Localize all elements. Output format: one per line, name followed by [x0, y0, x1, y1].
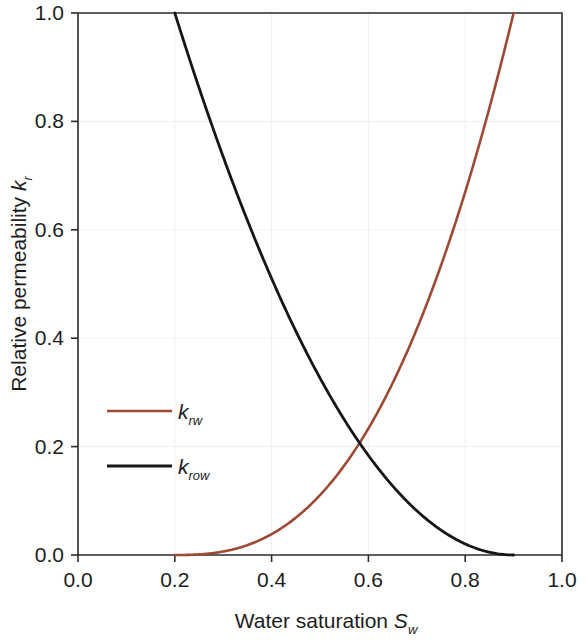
- x-tick-label: 0.4: [257, 568, 287, 591]
- y-tick-label: 0.4: [35, 326, 65, 349]
- y-tick-label: 0.2: [35, 435, 64, 458]
- y-tick-label: 1.0: [35, 1, 64, 24]
- x-tick-label: 1.0: [547, 568, 576, 591]
- y-tick-label: 0.8: [35, 109, 64, 132]
- x-tick-label: 0.8: [451, 568, 480, 591]
- x-tick-label: 0.2: [160, 568, 189, 591]
- relative-permeability-chart: 0.00.20.40.60.81.0 0.00.20.40.60.81.0 kr…: [0, 0, 585, 640]
- y-tick-label: 0.6: [35, 218, 64, 241]
- chart-figure: 0.00.20.40.60.81.0 0.00.20.40.60.81.0 kr…: [0, 0, 585, 640]
- x-tick-label: 0.6: [354, 568, 383, 591]
- chart-background: [0, 0, 585, 640]
- x-tick-label: 0.0: [63, 568, 92, 591]
- y-tick-label: 0.0: [35, 543, 64, 566]
